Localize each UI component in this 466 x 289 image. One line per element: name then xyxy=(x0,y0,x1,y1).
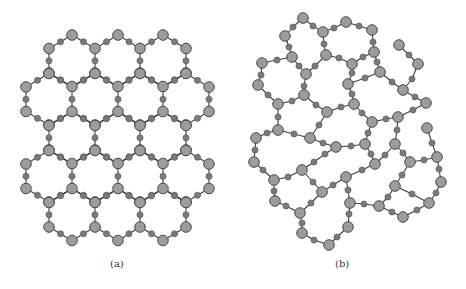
large-node xyxy=(345,198,356,209)
small-node xyxy=(92,212,98,218)
small-node xyxy=(80,231,86,237)
small-node xyxy=(103,193,109,199)
small-node xyxy=(126,154,132,160)
large-node xyxy=(249,157,260,168)
small-node xyxy=(23,96,29,102)
large-node xyxy=(67,106,78,117)
small-node xyxy=(46,58,52,64)
large-node xyxy=(135,68,146,79)
small-node xyxy=(296,63,302,69)
small-node xyxy=(365,130,371,136)
small-node xyxy=(410,107,416,113)
small-node xyxy=(171,193,177,199)
small-node xyxy=(285,174,291,180)
small-node xyxy=(330,182,336,188)
large-node xyxy=(135,145,146,156)
large-node xyxy=(374,201,385,212)
large-node xyxy=(181,68,192,79)
large-node xyxy=(135,222,146,233)
small-node xyxy=(336,55,342,61)
small-node xyxy=(34,192,40,198)
large-node xyxy=(324,240,335,251)
network-figure xyxy=(0,0,466,289)
small-node xyxy=(183,58,189,64)
large-node xyxy=(299,90,310,101)
large-node xyxy=(44,222,55,233)
large-node xyxy=(273,125,284,136)
small-node xyxy=(80,154,86,160)
large-node xyxy=(90,43,101,54)
small-node xyxy=(103,39,109,45)
large-node xyxy=(44,68,55,79)
large-node xyxy=(21,183,32,194)
small-node xyxy=(206,173,212,179)
small-node xyxy=(34,115,40,121)
large-node xyxy=(270,196,281,207)
small-node xyxy=(103,116,109,122)
large-node xyxy=(113,81,124,92)
panel-b-caption: (b) xyxy=(335,258,349,269)
large-node xyxy=(331,142,342,153)
large-node xyxy=(394,40,405,51)
small-node xyxy=(346,211,352,217)
small-node xyxy=(321,41,327,47)
small-node xyxy=(383,116,389,122)
large-node xyxy=(204,106,215,117)
small-node xyxy=(356,23,362,29)
small-node xyxy=(389,209,395,215)
small-node xyxy=(80,193,86,199)
large-node xyxy=(135,197,146,208)
large-node xyxy=(21,106,32,117)
small-node xyxy=(137,212,143,218)
small-node xyxy=(370,39,376,45)
small-node xyxy=(289,98,295,104)
large-node xyxy=(367,117,378,128)
large-node xyxy=(21,82,32,93)
small-node xyxy=(320,140,326,146)
large-node xyxy=(347,59,358,70)
small-node xyxy=(92,135,98,141)
large-node xyxy=(181,43,192,54)
large-node xyxy=(398,85,409,96)
large-node xyxy=(257,58,268,69)
small-node xyxy=(148,231,154,237)
large-node xyxy=(432,152,443,163)
small-node xyxy=(334,234,340,240)
small-node xyxy=(421,157,427,163)
large-node xyxy=(360,139,371,150)
large-node xyxy=(370,159,381,170)
small-node xyxy=(311,237,317,243)
large-node xyxy=(67,81,78,92)
small-node xyxy=(171,231,177,237)
large-node xyxy=(341,172,352,183)
small-node xyxy=(171,77,177,83)
panel-a-edges xyxy=(26,35,209,241)
small-node xyxy=(360,54,366,60)
small-node xyxy=(148,77,154,83)
small-node xyxy=(80,39,86,45)
large-node xyxy=(251,133,262,144)
small-node xyxy=(331,25,337,31)
large-node xyxy=(436,177,447,188)
small-node xyxy=(252,147,258,153)
small-node xyxy=(399,172,405,178)
small-node xyxy=(183,212,189,218)
large-node xyxy=(67,183,78,194)
small-node xyxy=(382,152,388,158)
small-node xyxy=(171,116,177,122)
large-node xyxy=(90,197,101,208)
small-node xyxy=(194,192,200,198)
small-node xyxy=(368,151,374,157)
small-node xyxy=(46,212,52,218)
small-node xyxy=(265,92,271,98)
large-node xyxy=(113,158,124,169)
small-node xyxy=(57,77,63,83)
small-node xyxy=(290,24,296,30)
small-node xyxy=(286,44,292,50)
large-node xyxy=(90,145,101,156)
small-node xyxy=(57,116,63,122)
large-node xyxy=(113,183,124,194)
small-node xyxy=(436,166,442,172)
small-node xyxy=(429,140,435,146)
small-node xyxy=(310,23,316,29)
